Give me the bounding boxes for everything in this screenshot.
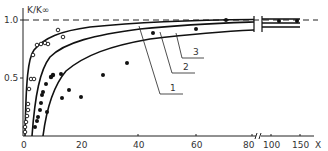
y-label: K/K∞ [27,5,49,15]
x-tick-label-0: 0 [21,140,27,150]
x-tick-label-40: 40 [133,140,145,150]
curve-label-text: 3 2 1 [170,47,199,93]
y-tick-label-1.0: 1.0 [4,15,19,25]
x-tick-label-80: 80 [243,140,255,150]
x-tick-label-150: 150 [292,140,309,150]
curve-3 [25,20,254,137]
curves [25,16,300,136]
label-1: 1 [170,83,176,93]
curve-1 [43,30,254,136]
label-3: 3 [193,47,199,57]
chart: K/K∞ 1.0 0.5 0 20 40 60 80 100 150 X 3 2… [0,0,328,151]
x-label: X [315,140,321,150]
axis-break-icon [255,133,261,139]
filled-markers [33,18,299,129]
leader-3 [176,33,204,58]
label-2: 2 [183,62,189,72]
x-tick-label-20: 20 [76,140,88,150]
x-tick-label-60: 60 [191,140,203,150]
x-tick-label-100: 100 [263,140,280,150]
y-tick-label-0.5: 0.5 [4,73,18,83]
curve-brackets [254,16,262,32]
